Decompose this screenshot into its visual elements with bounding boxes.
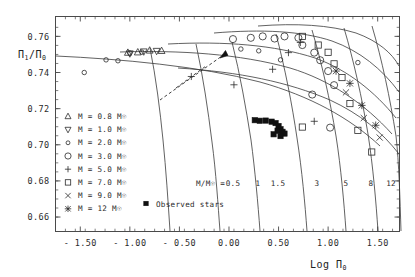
- legend-label: M = 2.0 M☉: [78, 138, 127, 147]
- svg-text:Π1/Π0: Π1/Π0: [18, 49, 47, 62]
- legend-label: M = 7.0 M☉: [78, 178, 127, 187]
- legend-label: M = 0.8 M☉: [78, 112, 127, 121]
- mass-track-label: 5: [344, 179, 349, 188]
- legend: M = 0.8 M☉M = 1.0 M☉M = 2.0 M☉M = 3.0 M☉…: [65, 112, 127, 213]
- x-tick-label: 0.00: [218, 238, 240, 248]
- x-tick-label: - 0.50: [163, 238, 196, 248]
- marker-plus: [188, 73, 195, 80]
- marker-filled-square: [252, 118, 257, 123]
- marker-plus: [297, 39, 304, 46]
- marker-circle: [325, 67, 332, 74]
- marker-square: [299, 124, 305, 130]
- period-ratio-diagram: - 1.50- 1.00- 0.500.000.501.001.50 0.660…: [0, 0, 415, 277]
- marker-starburst: [65, 206, 71, 212]
- marker-starburst: [346, 80, 353, 87]
- mass-track-label: 1: [256, 179, 261, 188]
- mass-track-title: M/M☉ =: [196, 179, 225, 188]
- marker-circle: [309, 91, 316, 98]
- x-axis-label: Log Π0: [310, 259, 347, 272]
- series-triangle-down: [126, 48, 160, 57]
- marker-filled-square: [271, 132, 276, 137]
- legend-label: M = 9.0 M☉: [78, 191, 127, 200]
- marker-filled-square: [263, 118, 268, 123]
- data-markers: [82, 33, 383, 155]
- marker-circle: [311, 49, 318, 56]
- model-sequence-curves: [56, 25, 399, 154]
- marker-circle: [229, 36, 236, 43]
- y-tick-label: 0.72: [27, 104, 49, 114]
- legend-label: M = 3.0 M☉: [78, 152, 127, 161]
- mass-track-label: 0.5: [226, 179, 241, 188]
- marker-square: [347, 100, 353, 106]
- marker-cross: [65, 193, 70, 198]
- marker-square: [65, 180, 70, 185]
- legend-observed-label: Observed stars: [156, 200, 224, 209]
- legend-label: M = 5.0 M☉: [78, 165, 127, 174]
- y-tick-label: 0.76: [27, 32, 49, 42]
- legend-label: M = 12 M☉: [78, 204, 122, 213]
- mass-track-label: 3: [315, 179, 320, 188]
- marker-diamond: [104, 58, 108, 62]
- svg-text:Log Π0: Log Π0: [310, 259, 347, 272]
- marker-square: [369, 149, 375, 155]
- y-tick-label: 0.68: [27, 176, 49, 186]
- mass-track-label: 8: [369, 179, 374, 188]
- y-tick-label: 0.66: [27, 212, 49, 222]
- x-tick-label: - 1.00: [113, 238, 146, 248]
- marker-triangle-down: [65, 127, 71, 133]
- marker-diamond: [66, 141, 70, 145]
- x-tick-label: - 1.50: [64, 238, 97, 248]
- legend-observed-stars: Observed stars: [144, 200, 224, 209]
- series-filled-square: [252, 118, 287, 139]
- marker-diamond: [356, 60, 360, 64]
- mass-track-label: 1.5: [271, 179, 286, 188]
- marker-diamond: [239, 47, 243, 51]
- marker-square: [325, 49, 331, 55]
- marker-circle: [65, 153, 71, 159]
- marker-starburst: [372, 122, 379, 129]
- marker-plus: [311, 118, 318, 125]
- marker-cross: [377, 134, 383, 140]
- y-axis-label: Π1/Π0: [18, 49, 47, 62]
- marker-filled-square: [257, 118, 262, 123]
- series-starburst: [332, 67, 379, 129]
- marker-plus: [269, 66, 276, 73]
- marker-starburst: [332, 67, 339, 74]
- marker-circle: [295, 34, 302, 41]
- evolution-arrow: [160, 51, 228, 101]
- marker-triangle-up: [65, 113, 71, 119]
- mass-track-labels: M/M☉ =0.511.535812: [196, 179, 396, 188]
- marker-circle: [259, 33, 266, 40]
- y-tick-label: 0.74: [27, 68, 49, 78]
- chart-svg: - 1.50- 1.00- 0.500.000.501.001.50 0.660…: [0, 0, 415, 277]
- x-tick-label: 0.50: [268, 238, 290, 248]
- marker-starburst: [358, 102, 365, 109]
- marker-filled-square: [278, 133, 283, 138]
- marker-diamond: [82, 70, 86, 74]
- marker-diamond: [256, 49, 260, 53]
- mass-track-label: 12: [386, 179, 396, 188]
- marker-diamond: [116, 59, 120, 63]
- marker-square: [339, 74, 345, 80]
- series-plus: [188, 39, 318, 125]
- x-tick-label: 1.00: [317, 238, 339, 248]
- x-tick-label: 1.50: [367, 238, 389, 248]
- marker-plus: [65, 166, 71, 172]
- marker-circle: [247, 34, 254, 41]
- legend-label: M = 1.0 M☉: [78, 125, 127, 134]
- marker-filled-square: [144, 201, 148, 205]
- marker-plus: [230, 81, 237, 88]
- marker-circle: [281, 33, 288, 40]
- marker-circle: [327, 124, 334, 131]
- marker-triangle-up: [146, 47, 153, 53]
- x-axis-tick-labels: - 1.50- 1.00- 0.500.000.501.001.50: [64, 238, 389, 248]
- y-tick-label: 0.70: [27, 140, 49, 150]
